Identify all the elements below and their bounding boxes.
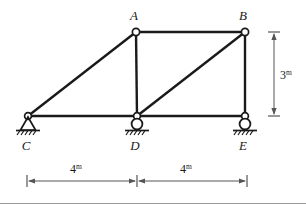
dim-arrow-up-icon (271, 33, 276, 40)
node-label-D: D (129, 138, 140, 153)
dim-arrow-left-start-icon (28, 179, 35, 184)
member-AD (136, 32, 137, 116)
member-CA (28, 32, 136, 116)
dim-arrow-right-end-icon (239, 179, 246, 184)
support-roller-E (233, 119, 257, 135)
truss-members (28, 32, 245, 116)
roller-circle-icon-D (132, 119, 143, 130)
truss-diagram-page: A B C D E 3m (0, 0, 306, 213)
node-label-A: A (129, 8, 138, 23)
node-label-B: B (239, 8, 247, 23)
dimension-label-span-right: 4m (180, 162, 192, 177)
dimension-label-height: 3m (280, 68, 292, 83)
joint-B (241, 28, 248, 35)
dim-arrow-down-icon (271, 108, 276, 115)
dim-arrow-left-end-icon (129, 179, 136, 184)
vertical-dimension: 3m (268, 32, 292, 116)
horizontal-dimensions: 4m 4m (27, 162, 247, 188)
dimension-span-right: 4m (138, 162, 246, 184)
dim-arrow-right-start-icon (138, 179, 145, 184)
joint-A (132, 28, 139, 35)
member-DB (137, 32, 245, 116)
support-roller-D (125, 119, 149, 135)
dimension-span-left: 4m (28, 162, 136, 184)
truss-diagram-canvas: A B C D E 3m (0, 0, 306, 213)
node-label-C: C (22, 138, 31, 153)
node-label-E: E (238, 138, 247, 153)
dimension-label-span-left: 4m (70, 162, 82, 177)
roller-circle-icon-E (240, 119, 251, 130)
